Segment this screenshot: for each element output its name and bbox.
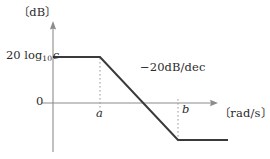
y-axis [50, 21, 56, 152]
x-axis-tick-label-a: a [96, 108, 103, 120]
x-axis-tick-label-b: b [182, 104, 189, 116]
x-axis [42, 100, 218, 106]
bode-plot-figure: 〔dB〕 〔rad/s〕 20 log10c 0 −20dB/dec a b [0, 0, 270, 159]
gain-label-variable: c [52, 48, 59, 62]
plot-canvas [0, 0, 270, 159]
gain-label-prefix: 20 log [6, 48, 42, 62]
gain-label-subscript: 10 [42, 54, 52, 63]
gain-level-label: 20 log10c [6, 50, 59, 62]
y-axis-zero-tick-label: 0 [36, 96, 43, 108]
slope-annotation-label: −20dB/dec [140, 62, 205, 74]
y-axis-unit-label: 〔dB〕 [18, 7, 57, 19]
x-axis-unit-label: 〔rad/s〕 [219, 108, 270, 120]
